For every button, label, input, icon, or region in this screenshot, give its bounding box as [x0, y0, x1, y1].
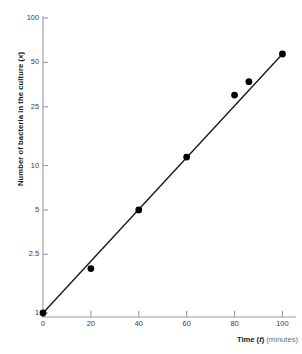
x-axis-title-units: (minutes) — [266, 335, 298, 344]
y-tick-label: 50 — [12, 57, 39, 66]
fit-line — [43, 54, 282, 313]
data-point — [40, 310, 47, 317]
x-tick-label: 40 — [124, 319, 154, 328]
y-tick-label: 1 — [12, 308, 39, 317]
data-point — [246, 78, 253, 85]
data-point — [87, 265, 94, 272]
x-axis-title-strong: Time (t) — [237, 335, 264, 344]
x-tick-label: 100 — [267, 319, 297, 328]
y-tick-label: 100 — [12, 13, 39, 22]
y-tick-label: 2.5 — [12, 249, 39, 258]
data-point — [135, 207, 142, 214]
data-point — [279, 51, 286, 58]
x-tick-label: 0 — [28, 319, 58, 328]
y-tick-label: 10 — [12, 161, 39, 170]
axis-ticks — [43, 18, 282, 317]
chart-figure: Number of bacteria in the culture (x) Ti… — [0, 0, 302, 354]
x-axis-variable: t — [259, 335, 262, 344]
x-tick-label: 60 — [172, 319, 202, 328]
best-fit-line — [43, 54, 282, 313]
x-tick-label: 20 — [76, 319, 106, 328]
plot-canvas — [0, 0, 302, 354]
y-tick-label: 5 — [12, 205, 39, 214]
data-point — [183, 154, 190, 161]
y-tick-label: 25 — [12, 102, 39, 111]
x-tick-label: 80 — [220, 319, 250, 328]
data-point — [231, 92, 238, 99]
x-axis-title: Time (t) (minutes) — [237, 335, 298, 344]
